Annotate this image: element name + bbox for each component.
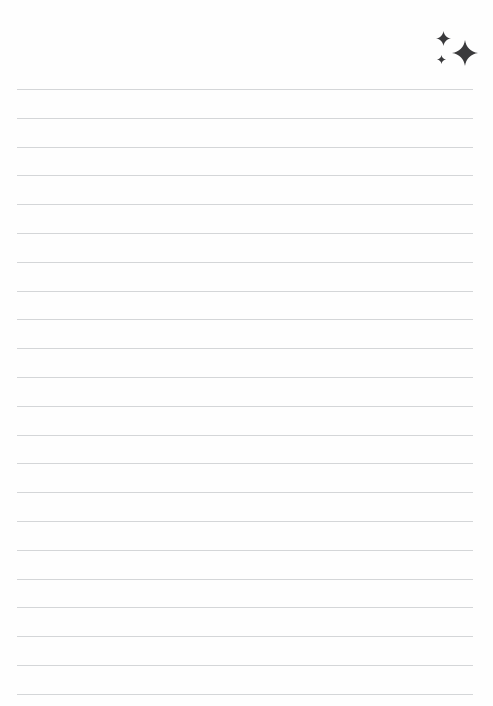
rule-line bbox=[17, 607, 473, 608]
rule-line bbox=[17, 262, 473, 263]
rule-line bbox=[17, 118, 473, 119]
rule-line bbox=[17, 377, 473, 378]
ruled-lines-layer bbox=[0, 0, 493, 706]
sparkles-icon bbox=[428, 22, 484, 72]
rule-line bbox=[17, 204, 473, 205]
rule-line bbox=[17, 291, 473, 292]
rule-line bbox=[17, 579, 473, 580]
rule-line bbox=[17, 665, 473, 666]
rule-line bbox=[17, 233, 473, 234]
rule-line bbox=[17, 319, 473, 320]
rule-line bbox=[17, 89, 473, 90]
rule-line bbox=[17, 147, 473, 148]
sparkle-medium-icon bbox=[436, 31, 451, 46]
rule-line bbox=[17, 175, 473, 176]
rule-line bbox=[17, 492, 473, 493]
sparkle-large-icon bbox=[452, 40, 478, 66]
rule-line bbox=[17, 463, 473, 464]
rule-line bbox=[17, 694, 473, 695]
sparkle-small-icon bbox=[437, 55, 446, 64]
note-page bbox=[0, 0, 493, 706]
rule-line bbox=[17, 550, 473, 551]
rule-line bbox=[17, 406, 473, 407]
rule-line bbox=[17, 636, 473, 637]
rule-line bbox=[17, 348, 473, 349]
rule-line bbox=[17, 435, 473, 436]
rule-line bbox=[17, 521, 473, 522]
